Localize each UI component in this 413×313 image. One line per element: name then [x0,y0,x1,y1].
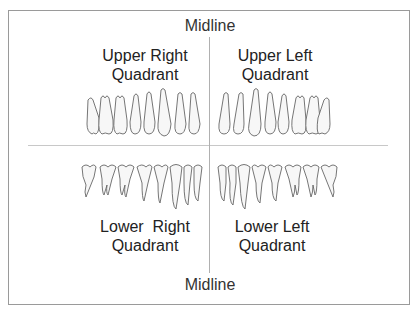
upper-left-teeth-icon [212,88,334,140]
horizontal-divider [28,145,388,146]
upper-left-line2: Quadrant [225,65,325,84]
midline-divider [209,37,210,273]
midline-label-bottom: Midline [160,276,260,294]
upper-right-label: Upper Right Quadrant [95,46,195,84]
lower-left-teeth-icon [215,163,340,213]
lower-left-line2: Quadrant [222,236,322,255]
lower-right-label: Lower Right Quadrant [90,217,200,255]
upper-right-line2: Quadrant [95,65,195,84]
lower-left-label: Lower Left Quadrant [222,217,322,255]
midline-label-top: Midline [160,17,260,35]
lower-right-line1: Lower Right [90,217,200,236]
lower-right-teeth-icon [80,163,205,213]
lower-left-line1: Lower Left [222,217,322,236]
lower-right-line2: Quadrant [90,236,200,255]
upper-left-label: Upper Left Quadrant [225,46,325,84]
upper-left-line1: Upper Left [225,46,325,65]
upper-right-line1: Upper Right [95,46,195,65]
upper-right-teeth-icon [85,88,207,140]
